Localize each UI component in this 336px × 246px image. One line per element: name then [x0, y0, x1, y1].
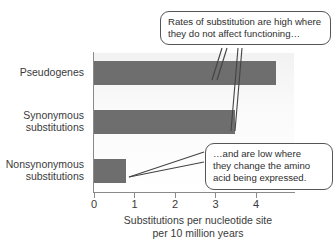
category-label-synonymous: Synonymous substitutions — [0, 109, 84, 133]
bar-synonymous-substitutions — [94, 110, 235, 134]
category-label-nonsynonymous-line2: substitutions — [0, 170, 84, 182]
callout-low-line3: acid being expressed. — [213, 172, 325, 184]
x-axis-line — [93, 192, 295, 193]
x-tick-label-1: 1 — [125, 198, 145, 211]
bar-pseudogenes — [94, 61, 276, 85]
callout-high-substitution-rates: Rates of substitution are high where the… — [160, 11, 331, 45]
callout-low-line1: …and are low where — [213, 148, 325, 160]
x-tick-label-2: 2 — [165, 198, 185, 211]
callout-high-line1: Rates of substitution are high where — [168, 16, 323, 28]
x-tick-label-0: 0 — [84, 198, 104, 211]
bar-chart-figure: 0 1 2 3 4 Pseudogenes Synonymous substit… — [0, 0, 336, 246]
x-tick-label-4: 4 — [246, 198, 266, 211]
category-label-synonymous-line1: Synonymous — [0, 109, 84, 121]
callout-low-substitution-rates: …and are low where they change the amino… — [205, 143, 333, 190]
x-axis-title: Substitutions per nucleotide site per 10… — [60, 214, 336, 240]
category-label-pseudogenes: Pseudogenes — [0, 66, 84, 78]
y-axis-line — [93, 52, 94, 193]
category-label-synonymous-line2: substitutions — [0, 121, 84, 133]
category-label-pseudogenes-line1: Pseudogenes — [0, 66, 84, 78]
callout-high-line2: they do not affect functioning… — [168, 28, 323, 40]
category-label-nonsynonymous-line1: Nonsynonymous — [0, 158, 84, 170]
x-tick-label-3: 3 — [206, 198, 226, 211]
callout-low-line2: they change the amino — [213, 160, 325, 172]
bar-nonsynonymous-substitutions — [94, 159, 126, 183]
x-axis-title-line2: per 10 million years — [60, 227, 336, 240]
x-axis-title-line1: Substitutions per nucleotide site — [60, 214, 336, 227]
category-label-nonsynonymous: Nonsynonymous substitutions — [0, 158, 84, 182]
